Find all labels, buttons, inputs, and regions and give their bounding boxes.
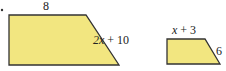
large-trapezoid-slant-label: 2x + 10 [93, 33, 129, 47]
large-trapezoid-slant-variable: 2x [93, 33, 105, 47]
small-trapezoid-slant-label: 6 [216, 44, 222, 58]
small-trapezoid [167, 39, 220, 64]
small-trapezoid-top-label: x + 3 [171, 23, 196, 37]
bullet-marker [1, 9, 3, 11]
small-trapezoid-top-constant: + 3 [177, 23, 196, 37]
diagram-canvas: 8 2x + 10 x + 3 6 [0, 0, 226, 71]
large-trapezoid-top-label: 8 [43, 0, 49, 13]
large-trapezoid-slant-constant: + 10 [104, 33, 129, 47]
